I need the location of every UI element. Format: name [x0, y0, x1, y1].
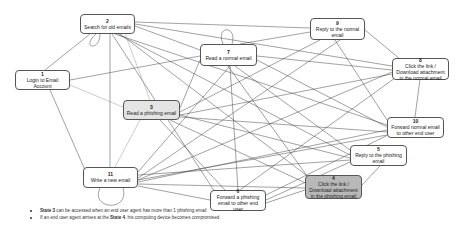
state-node-1: 1 Login to Email Account — [15, 70, 70, 90]
state-label: Read a phishing email — [127, 110, 176, 116]
note-item: State 3 can be accessed when an end user… — [30, 207, 219, 214]
state-label: Click the link / Download attachment in … — [395, 63, 446, 81]
state-label: Reply to the normal email — [313, 26, 362, 38]
state-node-11: 11 Write a new email — [83, 167, 138, 188]
state-label: Read a normal email — [205, 55, 251, 61]
note-prefix: If an end user agent arrives at the — [40, 215, 110, 220]
diagram-notes: State 3 can be accessed when an end user… — [30, 207, 219, 221]
state-label: Reply to the phishing email — [353, 152, 404, 164]
state-label: Login to Email Account — [18, 77, 67, 89]
state-label: Write a new email — [91, 177, 131, 183]
bullet-icon — [30, 210, 32, 212]
state-node-7: 7 Read a normal email — [200, 44, 257, 66]
note-item: If an end user agent arrives at the Stat… — [30, 214, 219, 221]
note-bold: State 4 — [110, 215, 125, 220]
note-text: , his computing device becomes compromis… — [125, 215, 219, 220]
state-node-3: 3 Read a phishing email — [123, 100, 180, 120]
state-node-9: 9 Reply to the normal email — [310, 18, 365, 40]
state-node-4: 4 Click the link / Download attachment i… — [305, 175, 362, 199]
bullet-icon — [30, 217, 32, 219]
state-label: Search for old emails — [84, 24, 131, 30]
state-node-2: 2 Search for old emails — [80, 14, 135, 34]
note-text: can be accessed when an end user agent h… — [55, 208, 206, 213]
state-node-5: 5 Reply to the phishing email — [350, 145, 407, 166]
state-label: Click the link / Download attachment in … — [308, 181, 359, 199]
state-label: Forward a phishing email to other end us… — [213, 194, 263, 212]
state-node-10: 10 Forward normal email to other end use… — [387, 117, 444, 138]
state-node-8: 8 Click the link / Download attachment i… — [392, 58, 449, 80]
state-label: Forward normal email to other end user — [390, 124, 441, 136]
note-bold: State 3 — [40, 208, 55, 213]
